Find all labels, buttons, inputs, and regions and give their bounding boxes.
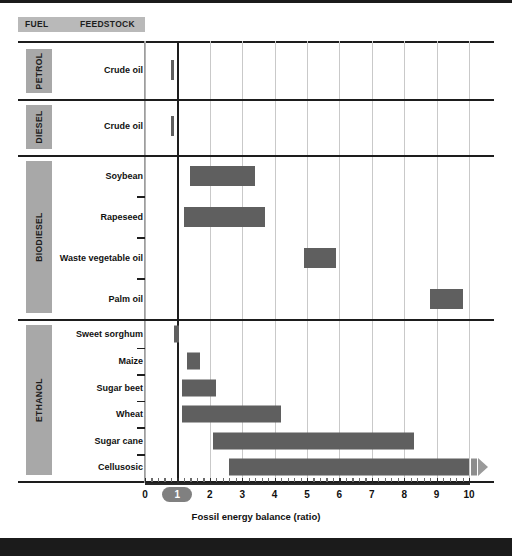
x-tick-minor: [236, 478, 237, 482]
row-label: Sugar cane: [94, 436, 143, 446]
group-tag-label: BIODIESEL: [34, 212, 44, 261]
range-bar: [171, 116, 174, 136]
x-tick-minor: [398, 478, 399, 482]
range-bar: [184, 207, 265, 227]
open-ended-stub: [471, 459, 477, 476]
x-tick-minor: [391, 478, 392, 482]
x-tick-minor: [430, 478, 431, 482]
range-bar: [182, 406, 281, 423]
x-tick-major: [242, 478, 243, 484]
x-tick-minor: [443, 478, 444, 482]
top-rule: [0, 0, 512, 3]
x-tick-minor: [424, 478, 425, 482]
range-bar: [229, 459, 469, 476]
x-tick-minor: [320, 478, 321, 482]
gridline-9: [437, 41, 438, 483]
x-tick-minor: [346, 478, 347, 482]
x-tick-minor: [301, 478, 302, 482]
row-label: Wheat: [116, 409, 143, 419]
row-label: Sweet sorghum: [76, 329, 143, 339]
x-tick-label: 3: [239, 489, 245, 500]
row-label: Soybean: [105, 171, 143, 181]
chart-area: PETROLDIESELBIODIESELETHANOL Crude oilCr…: [18, 41, 494, 483]
x-tick-label: 0: [142, 489, 148, 500]
group-tag-petrol: PETROL: [26, 49, 52, 93]
row-label: Maize: [118, 356, 143, 366]
x-tick-minor: [411, 478, 412, 482]
row-tick: [137, 454, 145, 456]
x-tick-minor: [268, 478, 269, 482]
group-tag-label: ETHANOL: [34, 378, 44, 422]
bottom-band: [0, 538, 512, 556]
group-tag-diesel: DIESEL: [26, 105, 52, 149]
group-separator: [18, 99, 494, 101]
range-bar: [174, 326, 179, 343]
gridline-6: [339, 41, 340, 483]
x-tick-minor: [262, 478, 263, 482]
x-tick-minor: [456, 478, 457, 482]
x-tick-minor: [255, 478, 256, 482]
range-bar: [190, 166, 255, 186]
x-tick-label: 2: [207, 489, 213, 500]
x-tick-major: [275, 478, 276, 484]
group-tag-label: DIESEL: [34, 110, 44, 143]
x-tick-minor: [385, 478, 386, 482]
range-bar: [304, 248, 336, 268]
range-bar: [182, 379, 216, 396]
row-tick: [137, 374, 145, 376]
row-tick: [137, 278, 145, 280]
x-tick-minor: [249, 478, 250, 482]
row-label: Cellusosic: [98, 462, 143, 472]
range-bar: [171, 60, 174, 80]
group-separator: [18, 155, 494, 157]
x-tick-major: [404, 478, 405, 484]
x-tick-minor: [216, 478, 217, 482]
gridline-7: [372, 41, 373, 483]
group-tag-label: PETROL: [34, 53, 44, 90]
gridline-0: [145, 41, 146, 483]
open-ended-arrow-icon: [478, 458, 488, 476]
x-tick-minor: [352, 478, 353, 482]
x-tick-major: [372, 478, 373, 484]
x-axis-title: Fossil energy balance (ratio): [0, 511, 512, 522]
row-tick: [137, 196, 145, 198]
x-tick-minor: [288, 478, 289, 482]
x-tick-major: [145, 478, 146, 484]
row-label: Crude oil: [104, 121, 143, 131]
x-tick-major: [307, 478, 308, 484]
x-tick-minor: [463, 478, 464, 482]
row-tick: [137, 348, 145, 350]
x-tick-label: 4: [272, 489, 278, 500]
x-tick-major: [437, 478, 438, 484]
row-label: Sugar beet: [96, 383, 143, 393]
x-tick-minor: [359, 478, 360, 482]
x-tick-label: 5: [304, 489, 310, 500]
range-bar: [187, 352, 200, 369]
gridline-10: [469, 41, 470, 483]
x-tick-minor: [313, 478, 314, 482]
group-separator: [18, 319, 494, 321]
row-tick: [137, 237, 145, 239]
x-tick-highlight-pill: 1: [162, 487, 192, 502]
x-tick-label: 7: [369, 489, 375, 500]
range-bar: [213, 432, 414, 449]
x-tick-label: 9: [434, 489, 440, 500]
x-tick-minor: [365, 478, 366, 482]
x-tick-label-highlight: 1: [175, 489, 181, 500]
group-tag-biodiesel: BIODIESEL: [26, 161, 52, 313]
x-tick-major: [210, 478, 211, 484]
x-tick-minor: [184, 478, 185, 482]
x-tick-minor: [333, 478, 334, 482]
range-bar: [430, 289, 462, 309]
feedstock-column-header: FEEDSTOCK: [80, 19, 135, 29]
x-tick-minor: [203, 478, 204, 482]
x-tick-major: [177, 478, 178, 484]
x-tick-minor: [378, 478, 379, 482]
group-tag-ethanol: ETHANOL: [26, 325, 52, 475]
row-tick: [137, 427, 145, 429]
x-tick-minor: [326, 478, 327, 482]
x-tick-minor: [450, 478, 451, 482]
x-tick-minor: [151, 478, 152, 482]
x-tick-minor: [171, 478, 172, 482]
x-tick-label: 6: [337, 489, 343, 500]
